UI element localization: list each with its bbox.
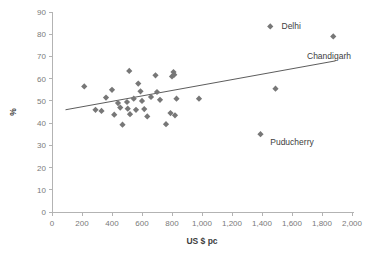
data-point (131, 96, 137, 102)
x-axis-tick-label: 1,200 (222, 219, 243, 228)
data-point (267, 23, 273, 29)
data-point (139, 98, 145, 104)
x-axis-tick-label: 600 (135, 219, 149, 228)
scatter-chart: 010203040506070809002004006008001,0001,2… (0, 0, 376, 259)
data-point (163, 121, 169, 127)
x-axis-tick-label: 200 (75, 219, 89, 228)
data-point (135, 80, 141, 86)
data-point (173, 96, 179, 102)
y-axis-tick-label: 90 (37, 8, 46, 17)
x-axis-title: US $ pc (186, 236, 217, 246)
data-point (157, 97, 163, 103)
data-point (109, 87, 115, 93)
data-point (196, 96, 202, 102)
data-point (98, 108, 104, 114)
y-axis-tick-label: 70 (37, 52, 46, 61)
x-axis-tick-label: 400 (105, 219, 119, 228)
data-point (126, 68, 132, 74)
data-point (272, 86, 278, 92)
x-axis-tick-label: 800 (165, 219, 179, 228)
data-point (257, 131, 263, 137)
data-point (127, 111, 133, 117)
y-axis-title: % (8, 108, 18, 116)
data-point (125, 106, 131, 112)
data-point-label: Delhi (282, 21, 301, 31)
plot-area: 010203040506070809002004006008001,0001,2… (0, 0, 376, 259)
data-point (111, 112, 117, 118)
x-axis-tick-label: 1,600 (282, 219, 303, 228)
y-axis-tick-label: 50 (37, 97, 46, 106)
x-axis-tick-label: 1,800 (312, 219, 333, 228)
x-axis-tick-label: 2,000 (342, 219, 363, 228)
data-point (144, 113, 150, 119)
data-point (103, 94, 109, 100)
data-point (152, 72, 158, 78)
data-point (141, 106, 147, 112)
trendline (66, 61, 336, 110)
y-axis-tick-label: 60 (37, 75, 46, 84)
data-point (81, 83, 87, 89)
data-point (137, 88, 143, 94)
x-axis-tick-label: 1,000 (192, 219, 213, 228)
data-point (119, 122, 125, 128)
data-point (154, 89, 160, 95)
y-axis-tick-label: 40 (37, 119, 46, 128)
data-point (330, 33, 336, 39)
y-axis-tick-label: 0 (42, 208, 47, 217)
data-point-label: Chandigarh (307, 51, 351, 61)
data-point (92, 107, 98, 113)
x-axis-tick-label: 0 (50, 219, 55, 228)
x-axis-tick-label: 1,400 (252, 219, 273, 228)
data-point (124, 99, 130, 105)
y-axis-tick-label: 30 (37, 141, 46, 150)
data-point (133, 107, 139, 113)
y-axis-tick-label: 20 (37, 164, 46, 173)
y-axis-tick-label: 10 (37, 186, 46, 195)
data-point-label: Puducherry (270, 137, 314, 147)
y-axis-tick-label: 80 (37, 30, 46, 39)
